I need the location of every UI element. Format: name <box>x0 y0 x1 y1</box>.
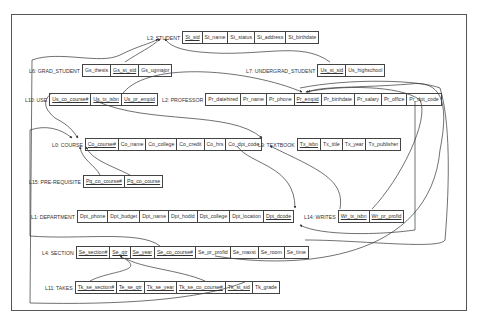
relation-fields: St_sidSt_nameSt_statusSt_addressSt_birth… <box>182 31 319 44</box>
key-field: Pq_co_course <box>125 176 162 187</box>
key-field: Tk_se_co_course# <box>177 282 226 293</box>
key-field: Co_course# <box>86 139 119 150</box>
key-field: Wr_pr_profid <box>370 211 404 222</box>
field: Dpt_phone <box>78 211 108 222</box>
relation-label: L10: USE <box>25 97 47 103</box>
relation-student: L3: STUDENTSt_sidSt_nameSt_statusSt_addr… <box>147 31 319 44</box>
field: Tx_publisher <box>366 139 400 150</box>
field: Tx_year <box>343 139 367 150</box>
relation-label: L14: WRITES <box>304 214 336 220</box>
relation-undergrad_student: L7: UNDERGRAD_STUDENTUs_st_sidUs_highsch… <box>246 64 385 77</box>
field: Pr_salary <box>355 94 382 105</box>
relation-fields: Pq_co_course#Pq_co_course <box>83 175 163 188</box>
relation-label: L15: PRE-REQUISITE <box>29 179 81 185</box>
key-field: Us_co_course# <box>50 94 91 105</box>
key-field: Se_co_course# <box>155 247 196 258</box>
field: Se_room <box>259 247 285 258</box>
relation-department: L1: DEPARTMENTDpt_phoneDpt_budgetDpt_nam… <box>31 210 294 223</box>
relation-label: L0: COURSE <box>52 142 83 148</box>
field: Co_name <box>119 139 147 150</box>
field: Dpt_hodid <box>169 211 198 222</box>
relation-label: L9: TEXTBOOK <box>258 142 295 148</box>
field: Gs_ugmajor <box>139 65 171 76</box>
relation-prerequisite: L15: PRE-REQUISITEPq_co_course#Pq_co_cou… <box>29 175 163 188</box>
relation-fields: Us_st_sidUs_highschool <box>317 64 385 77</box>
relation-fields: Tx_isbnTx_titleTx_yearTx_publisher <box>297 138 401 151</box>
key-field: Us_pr_empid <box>122 94 157 105</box>
relation-fields: Tk_se_section#Te_se_qtrTk_se_yearTk_se_c… <box>75 281 280 294</box>
field: Gs_thesis <box>83 65 111 76</box>
relation-use: L10: USEUs_co_course#Us_tx_isbnUs_pr_emp… <box>25 93 158 106</box>
key-field: Tk_st_sid <box>226 282 253 293</box>
field: Dpt_name <box>140 211 169 222</box>
relation-label: L11: TAKES <box>45 285 73 291</box>
key-field: Dpt_dcode <box>264 211 293 222</box>
field: St_birthdate <box>286 32 318 43</box>
key-field: Se_qtr <box>110 247 130 258</box>
field: Tk_grade <box>253 282 279 293</box>
relation-label: L6: GRAD_STUDENT <box>29 68 80 74</box>
relation-writes: L14: WRITESWr_tx_isbnWr_pr_profid <box>304 210 404 223</box>
field: St_address <box>255 32 286 43</box>
key-field: Se_year <box>131 247 155 258</box>
field: St_name <box>203 32 229 43</box>
field: Se_time <box>285 247 308 258</box>
relation-section: L4: SECTIONSe_section#Se_qtrSe_yearSe_co… <box>42 246 309 259</box>
field: Pr_office <box>382 94 407 105</box>
relation-grad_student: L6: GRAD_STUDENTGs_thesisGs_st_sidGs_ugm… <box>29 64 172 77</box>
field: Co_dpt_code <box>226 139 261 150</box>
field: Co_hrs <box>205 139 227 150</box>
field: Se_pr_profid <box>196 247 231 258</box>
relation-professor: L2: PROFESSORPr_datehiredPr_namePr_phone… <box>162 93 442 106</box>
relation-fields: Pr_datehiredPr_namePr_phonePr_empidPr_bi… <box>205 93 441 106</box>
key-field: Tk_se_year <box>145 282 177 293</box>
key-field: Gs_st_sid <box>111 65 139 76</box>
key-field: Pr_empid <box>295 94 322 105</box>
key-field: Pq_co_course# <box>84 176 125 187</box>
relation-fields: Co_course#Co_nameCo_collegeCo_creditCo_h… <box>85 138 262 151</box>
field: Tx_title <box>321 139 343 150</box>
relation-fields: Gs_thesisGs_st_sidGs_ugmajor <box>82 64 172 77</box>
relation-fields: Us_co_course#Us_tx_isbnUs_pr_empid <box>49 93 158 106</box>
relation-label: L4: SECTION <box>42 250 74 256</box>
key-field: Tx_isbn <box>298 139 321 150</box>
relation-course: L0: COURSECo_course#Co_nameCo_collegeCo_… <box>52 138 262 151</box>
relation-fields: Se_section#Se_qtrSe_yearSe_co_course#Se_… <box>76 246 309 259</box>
relation-fields: Dpt_phoneDpt_budgetDpt_nameDpt_hodidDpt_… <box>77 210 294 223</box>
field: Se_maxst <box>231 247 259 258</box>
relation-label: L1: DEPARTMENT <box>31 214 75 220</box>
key-field: Wr_tx_isbn <box>339 211 370 222</box>
key-field: Te_se_qtr <box>117 282 145 293</box>
field: Pr_phone <box>267 94 295 105</box>
relation-label: L7: UNDERGRAD_STUDENT <box>246 68 315 74</box>
key-field: Se_section# <box>77 247 111 258</box>
field: Us_highschool <box>346 65 384 76</box>
key-field: St_sid <box>183 32 202 43</box>
key-field: Us_st_sid <box>318 65 346 76</box>
field: Pr_birthdate <box>322 94 355 105</box>
relation-label: L2: PROFESSOR <box>162 97 203 103</box>
key-field: Us_tx_isbn <box>91 94 122 105</box>
relation-label: L3: STUDENT <box>147 35 180 41</box>
field: Pr_dpt_code <box>407 94 440 105</box>
relation-fields: Wr_tx_isbnWr_pr_profid <box>338 210 405 223</box>
field: Dpt_college <box>198 211 230 222</box>
field: St_status <box>228 32 255 43</box>
field: Co_credit <box>177 139 204 150</box>
field: Dpt_location <box>230 211 264 222</box>
field: Co_college <box>146 139 177 150</box>
field: Pr_name <box>241 94 267 105</box>
relation-takes: L11: TAKESTk_se_section#Te_se_qtrTk_se_y… <box>45 281 280 294</box>
relation-textbook: L9: TEXTBOOKTx_isbnTx_titleTx_yearTx_pub… <box>258 138 401 151</box>
field: Dpt_budget <box>108 211 140 222</box>
field: Pr_datehired <box>206 94 241 105</box>
diagram-frame <box>11 14 467 311</box>
key-field: Tk_se_section# <box>76 282 117 293</box>
